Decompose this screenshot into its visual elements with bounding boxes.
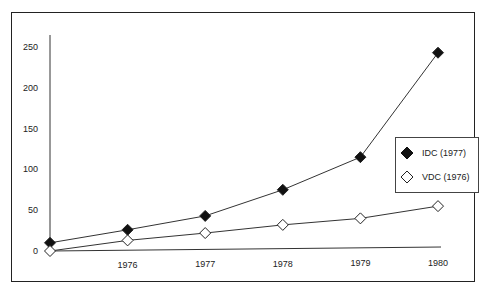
legend: IDC (1977) VDC (1976) bbox=[395, 137, 479, 193]
filled-diamond-icon bbox=[400, 146, 414, 160]
filled-diamond-marker bbox=[277, 184, 288, 195]
x-tick-label: 1977 bbox=[195, 259, 215, 269]
y-tick-label: 150 bbox=[23, 124, 38, 134]
y-tick-label: 0 bbox=[33, 246, 38, 256]
legend-label: IDC (1977) bbox=[422, 148, 466, 158]
filled-diamond-marker bbox=[433, 47, 444, 58]
legend-item-idc: IDC (1977) bbox=[400, 146, 466, 160]
filled-diamond-marker bbox=[355, 152, 366, 163]
y-tick-label: 200 bbox=[23, 83, 38, 93]
open-diamond-marker bbox=[355, 213, 366, 224]
filled-diamond-marker bbox=[200, 210, 211, 221]
open-diamond-marker bbox=[433, 201, 444, 212]
x-axis bbox=[50, 247, 441, 251]
y-tick-label: 100 bbox=[23, 164, 38, 174]
open-diamond-marker bbox=[277, 219, 288, 230]
series-line bbox=[50, 53, 438, 243]
legend-item-vdc: VDC (1976) bbox=[400, 170, 470, 184]
x-tick-label: 1980 bbox=[428, 258, 448, 268]
x-tick-label: 1979 bbox=[350, 258, 370, 268]
y-tick-label: 50 bbox=[28, 205, 38, 215]
series-line bbox=[50, 206, 438, 251]
open-diamond-marker bbox=[45, 246, 56, 257]
open-diamond-marker bbox=[200, 228, 211, 239]
x-tick-label: 1976 bbox=[118, 260, 138, 270]
open-diamond-icon bbox=[400, 170, 414, 184]
legend-label: VDC (1976) bbox=[422, 172, 470, 182]
y-tick-label: 250 bbox=[23, 42, 38, 52]
open-diamond-marker bbox=[122, 235, 133, 246]
x-tick-label: 1978 bbox=[273, 259, 293, 269]
filled-diamond-marker bbox=[122, 224, 133, 235]
